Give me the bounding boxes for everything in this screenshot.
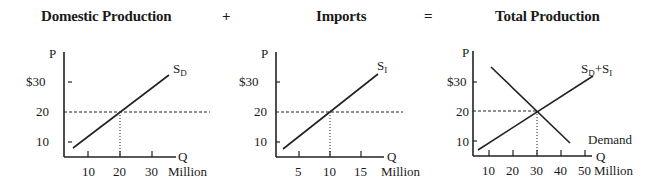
y-tick-10: 10 <box>254 134 267 149</box>
y-tick-20: 20 <box>254 104 267 119</box>
million-label: Million <box>381 164 421 179</box>
x-tick-50: 50 <box>578 163 591 178</box>
x-tick-20: 20 <box>506 163 519 178</box>
panel-imports: P Q $30 20 10 5 10 15 Million SI <box>239 46 421 179</box>
panel-domestic: P Q $30 20 10 10 20 30 Million SD <box>26 46 210 179</box>
demand-line <box>491 67 570 143</box>
y-tick-10: 10 <box>456 134 469 149</box>
x-tick-10: 10 <box>82 164 95 179</box>
si-label: SI <box>377 58 387 75</box>
x-tick-40: 40 <box>554 163 567 178</box>
x-tick-5: 5 <box>295 164 302 179</box>
million-label: Million <box>168 164 208 179</box>
x-tick-10: 10 <box>323 164 336 179</box>
q-axis-label: Q <box>178 149 188 164</box>
million-label: Million <box>594 163 634 178</box>
panel-total: P Q $30 20 10 10 20 30 40 50 Million SD+… <box>447 45 634 178</box>
total-supply-line <box>478 76 593 150</box>
y-tick-20: 20 <box>36 104 49 119</box>
q-axis-label: Q <box>387 149 397 164</box>
y-tick-30: $30 <box>239 74 259 89</box>
sd-plus-si-label: SD+SI <box>581 61 612 78</box>
charts-svg: P Q $30 20 10 10 20 30 Million SD P Q $3… <box>0 0 665 187</box>
supply-diagram: Domestic Production + Imports = Total Pr… <box>0 0 665 187</box>
q-axis-label: Q <box>596 149 606 164</box>
demand-label: Demand <box>588 132 633 147</box>
x-tick-20: 20 <box>113 164 126 179</box>
x-tick-30: 30 <box>530 163 543 178</box>
p-axis-label: P <box>261 46 268 61</box>
p-axis-label: P <box>462 45 469 60</box>
y-tick-30: $30 <box>447 74 467 89</box>
x-tick-15: 15 <box>354 164 367 179</box>
sd-label: SD <box>173 61 187 78</box>
y-tick-20: 20 <box>456 104 469 119</box>
x-tick-10: 10 <box>482 163 495 178</box>
y-tick-10: 10 <box>36 134 49 149</box>
y-tick-30: $30 <box>26 74 46 89</box>
x-tick-30: 30 <box>145 164 158 179</box>
p-axis-label: P <box>49 46 56 61</box>
